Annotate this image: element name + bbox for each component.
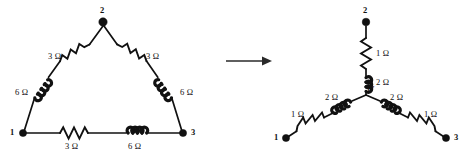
star-node-3-dot (442, 134, 449, 141)
delta-right-inductor-label: 6 Ω (180, 88, 193, 97)
delta-node-label-2: 2 (100, 6, 104, 15)
star-top-resistor-label: 1 Ω (376, 49, 389, 58)
circuit-diagram-svg (0, 0, 464, 154)
delta-bottom-resistor-label: 3 Ω (65, 142, 78, 151)
star-left-inductor-label: 2 Ω (325, 93, 338, 102)
transformation-arrow-icon (226, 57, 272, 66)
star-center-node-label: dʹ (368, 86, 374, 94)
delta-wire-2-to-right-resistor (104, 26, 117, 44)
star-node-2-dot (362, 18, 370, 26)
delta-bottom-resistor-3ohm-symbol (60, 127, 88, 138)
delta-wire-left-inductor-to-1 (25, 99, 35, 130)
star-right-inductor-label: 2 Ω (390, 93, 403, 102)
delta-node-label-1: 1 (10, 128, 14, 137)
star-right-inductor-2ohm-symbol (381, 100, 400, 113)
star-left-inductor-2ohm-symbol (332, 100, 351, 113)
delta-right-resistor-label: 3 Ω (146, 52, 159, 61)
star-node-label-1: 1 (274, 133, 278, 142)
delta-wire-left-mid (49, 61, 61, 77)
delta-right-resistor-3ohm-symbol (117, 44, 147, 61)
star-node-1-dot (282, 134, 289, 141)
star-wire-center-to-right-inductor (366, 95, 380, 101)
star-top-resistor-1ohm-symbol (361, 38, 371, 69)
star-left-resistor-label: 1 Ω (291, 110, 304, 119)
star-wire-center-to-left-inductor (352, 95, 366, 101)
star-top-inductor-label: 2 Ω (376, 78, 389, 87)
delta-left-resistor-3ohm-symbol (60, 44, 90, 61)
star-wire-right-resistor-to-3 (436, 131, 444, 136)
star-node-label-2: 2 (363, 6, 367, 15)
delta-node-label-3: 3 (191, 128, 195, 137)
delta-left-inductor-label: 6 Ω (15, 88, 28, 97)
delta-network (19, 18, 186, 139)
delta-wire-right-inductor-to-3 (172, 99, 182, 130)
figure-canvas: 2 1 3 3 Ω 6 Ω 3 Ω 6 Ω 3 Ω 6 Ω 2 1 3 dʹ 1… (0, 0, 464, 154)
delta-wire-right-mid (147, 61, 158, 77)
delta-bottom-inductor-6ohm-symbol (127, 127, 148, 133)
delta-wire-2-to-left-resistor (90, 26, 104, 45)
star-right-resistor-label: 1 Ω (424, 110, 437, 119)
delta-node-3-dot (179, 129, 186, 136)
delta-node-1-dot (19, 129, 26, 136)
delta-left-resistor-label: 3 Ω (48, 52, 61, 61)
star-wire-right-mid (398, 112, 408, 117)
delta-right-inductor-6ohm-symbol (155, 80, 172, 101)
delta-bottom-inductor-label: 6 Ω (128, 142, 141, 151)
star-node-label-3: 3 (454, 133, 458, 142)
star-network (282, 18, 449, 141)
delta-node-2-dot (99, 18, 107, 26)
delta-left-inductor-6ohm-symbol (35, 80, 52, 101)
star-wire-left-resistor-to-1 (289, 131, 297, 136)
star-wire-left-mid (324, 112, 334, 117)
